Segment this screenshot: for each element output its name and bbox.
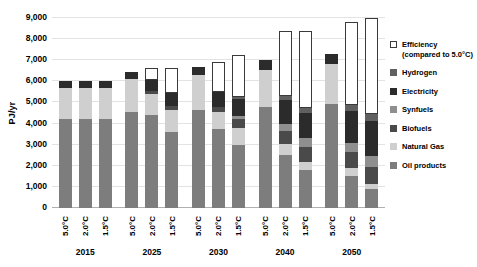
bar[interactable] xyxy=(365,18,378,208)
bar-segment[interactable] xyxy=(192,110,205,208)
bar-segment[interactable] xyxy=(165,68,178,93)
bar[interactable] xyxy=(145,18,158,208)
bar-segment[interactable] xyxy=(232,55,245,97)
bar-segment[interactable] xyxy=(125,112,138,208)
bar-segment[interactable] xyxy=(325,104,338,209)
bar-segment[interactable] xyxy=(345,111,358,143)
x-axis-scenario-label: 2.0°C xyxy=(214,216,223,236)
bar[interactable] xyxy=(345,18,358,208)
bar-segment[interactable] xyxy=(212,112,225,129)
x-axis-group: 5.0°C2.0°C1.5°C2025 xyxy=(119,209,186,267)
bar-segment[interactable] xyxy=(232,97,245,99)
bar-segment[interactable] xyxy=(279,124,292,131)
bar-segment[interactable] xyxy=(365,189,378,208)
bar-segment[interactable] xyxy=(299,113,312,138)
bar[interactable] xyxy=(99,18,112,208)
bar-segment[interactable] xyxy=(365,184,378,189)
legend-item[interactable]: Oil products xyxy=(390,161,477,171)
bar-segment[interactable] xyxy=(259,60,272,70)
bar[interactable] xyxy=(212,18,225,208)
bar-segment[interactable] xyxy=(165,110,178,132)
bar[interactable] xyxy=(165,18,178,208)
bar-segment[interactable] xyxy=(79,119,92,208)
bar-segment[interactable] xyxy=(325,64,338,103)
bar-segment[interactable] xyxy=(192,75,205,110)
bar-segment[interactable] xyxy=(212,129,225,208)
bar[interactable] xyxy=(125,18,138,208)
bar-segment[interactable] xyxy=(259,107,272,208)
bar-segment[interactable] xyxy=(59,81,72,87)
bar[interactable] xyxy=(279,18,292,208)
bar-segment[interactable] xyxy=(232,119,245,127)
bar-segment[interactable] xyxy=(59,88,72,120)
bar-segment[interactable] xyxy=(345,22,358,104)
legend-item[interactable]: Synfuels xyxy=(390,105,477,115)
bar-segment[interactable] xyxy=(365,18,378,114)
bar-segment[interactable] xyxy=(59,119,72,208)
bar-segment[interactable] xyxy=(299,162,312,170)
bar-segment[interactable] xyxy=(145,68,158,81)
bar-segment[interactable] xyxy=(279,96,292,100)
bar[interactable] xyxy=(59,18,72,208)
bar-segment[interactable] xyxy=(79,81,92,87)
legend-item[interactable]: Natural Gas xyxy=(390,142,477,152)
bar-segment[interactable] xyxy=(212,107,225,112)
bar[interactable] xyxy=(79,18,92,208)
bar-segment[interactable] xyxy=(279,100,292,123)
bar-segment[interactable] xyxy=(145,115,158,208)
bar-segment[interactable] xyxy=(99,119,112,208)
bar-segment[interactable] xyxy=(345,168,358,176)
plot-area: 9,0008,0007,0006,0005,0004,0003,0002,000… xyxy=(52,18,385,208)
bar-segment[interactable] xyxy=(125,79,138,112)
bar[interactable] xyxy=(299,18,312,208)
bar-segment[interactable] xyxy=(192,67,205,75)
bar-segment[interactable] xyxy=(165,93,178,106)
x-axis-scenario-tick: 2.0°C xyxy=(279,209,292,247)
bar-segment[interactable] xyxy=(145,94,158,115)
bar-segment[interactable] xyxy=(232,116,245,119)
legend-item[interactable]: Hydrogen xyxy=(390,68,477,78)
bar-segment[interactable] xyxy=(365,121,378,156)
bar-segment[interactable] xyxy=(345,143,358,153)
bar[interactable] xyxy=(232,18,245,208)
bar-segment[interactable] xyxy=(279,131,292,144)
bar-segment[interactable] xyxy=(232,99,245,116)
bar-segment[interactable] xyxy=(145,80,158,91)
x-axis-scenario-tick: 5.0°C xyxy=(259,209,272,247)
bar-segment[interactable] xyxy=(345,105,358,111)
bar-segment[interactable] xyxy=(279,144,292,156)
bar-segment[interactable] xyxy=(99,88,112,120)
bar-segment[interactable] xyxy=(259,70,272,107)
bar-segment[interactable] xyxy=(212,92,225,107)
legend-item[interactable]: Biofuels xyxy=(390,124,477,134)
bar-segment[interactable] xyxy=(299,170,312,208)
legend-item[interactable]: Electricity xyxy=(390,87,477,97)
bar-segment[interactable] xyxy=(212,62,225,92)
bar-segment[interactable] xyxy=(145,91,158,94)
bar-segment[interactable] xyxy=(165,106,178,110)
bar-segment[interactable] xyxy=(299,138,312,146)
bar-segment[interactable] xyxy=(299,108,312,113)
bar-segment[interactable] xyxy=(299,31,312,108)
bar-segment[interactable] xyxy=(345,152,358,168)
bar[interactable] xyxy=(325,18,338,208)
bar-segment[interactable] xyxy=(365,114,378,121)
bar-segment[interactable] xyxy=(299,147,312,162)
bar-segment[interactable] xyxy=(279,155,292,208)
bar-segment[interactable] xyxy=(345,176,358,208)
bar-segment[interactable] xyxy=(165,132,178,208)
bar-segment[interactable] xyxy=(99,81,112,87)
x-axis-scenario-tick: 1.5°C xyxy=(99,209,112,247)
bar[interactable] xyxy=(259,18,272,208)
bar-segment[interactable] xyxy=(365,167,378,184)
bar-segment[interactable] xyxy=(232,128,245,145)
x-axis-scenario-tick: 2.0°C xyxy=(79,209,92,247)
legend-item[interactable]: Efficiency (compared to 5.0°C) xyxy=(390,40,477,59)
bar[interactable] xyxy=(192,18,205,208)
bar-segment[interactable] xyxy=(125,72,138,79)
bar-segment[interactable] xyxy=(232,145,245,208)
bar-segment[interactable] xyxy=(325,54,338,65)
bar-segment[interactable] xyxy=(79,88,92,120)
bar-segment[interactable] xyxy=(279,31,292,96)
bar-segment[interactable] xyxy=(365,156,378,167)
